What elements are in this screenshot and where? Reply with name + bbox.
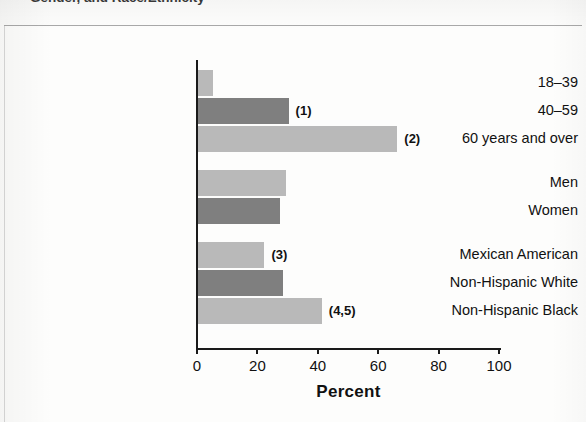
figure-caption-clipped: Gender, and Race/Ethnicity <box>30 0 330 10</box>
category-label: Non-Hispanic White <box>398 274 586 290</box>
x-axis-title: Percent <box>196 382 501 402</box>
category-label: Men <box>398 174 586 190</box>
bar <box>198 298 322 324</box>
bar-footnote-marker: (1) <box>296 103 312 118</box>
bar <box>198 270 283 296</box>
bar <box>198 98 289 124</box>
bar <box>198 242 264 268</box>
x-axis-tick <box>196 348 198 354</box>
bar <box>198 70 213 96</box>
x-axis-tick-label: 0 <box>193 357 201 374</box>
bar-footnote-marker: (4,5) <box>329 303 356 318</box>
x-axis-tick <box>498 348 500 354</box>
bar-footnote-marker: (3) <box>271 247 287 262</box>
x-axis-tick <box>377 348 379 354</box>
x-axis-tick-label: 20 <box>249 357 266 374</box>
category-label: Mexican American <box>398 246 586 262</box>
x-axis-tick-label: 60 <box>370 357 387 374</box>
x-axis-line <box>196 348 501 350</box>
x-axis-tick <box>256 348 258 354</box>
x-axis-tick-label: 100 <box>486 357 511 374</box>
bar-footnote-marker: (2) <box>404 131 420 146</box>
category-label: 18–39 <box>398 74 586 90</box>
scanned-page: Gender, and Race/Ethnicity 18–3940–5960 … <box>0 0 586 422</box>
x-axis-tick <box>438 348 440 354</box>
bar <box>198 198 280 224</box>
bar-chart: 18–3940–5960 years and overMenWomenMexic… <box>0 30 586 422</box>
x-axis-tick-label: 80 <box>430 357 447 374</box>
category-label: 40–59 <box>398 102 586 118</box>
category-label: 60 years and over <box>398 130 586 146</box>
bar <box>198 170 286 196</box>
category-label: Non-Hispanic Black <box>398 302 586 318</box>
horizontal-rule <box>4 25 582 26</box>
bar <box>198 126 397 152</box>
category-label: Women <box>398 202 586 218</box>
x-axis-tick <box>317 348 319 354</box>
x-axis-tick-label: 40 <box>309 357 326 374</box>
